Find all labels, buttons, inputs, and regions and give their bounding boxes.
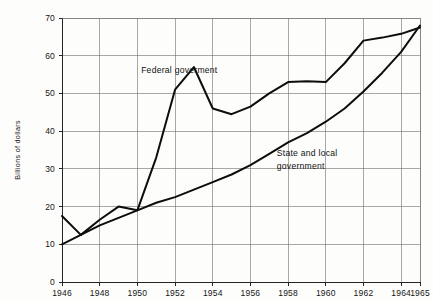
chart-axes: [62, 18, 420, 282]
series-inline-label: State and local: [277, 148, 338, 158]
horizontal-gridlines: [62, 18, 420, 244]
vertical-gridlines: [100, 18, 420, 282]
x-axis-tick-label: 1958: [278, 288, 298, 298]
x-axis-tick-label: 1948: [90, 288, 110, 298]
y-axis-tick-label: 50: [45, 88, 55, 98]
x-axis-tick-label: 1952: [165, 288, 185, 298]
y-axis-tick-label: 0: [50, 277, 55, 287]
x-axis-tick-label: 1964: [391, 288, 411, 298]
x-axis-tick-label: 1962: [354, 288, 374, 298]
y-axis-tick-label: 20: [45, 202, 55, 212]
y-axis-tick-labels: 010203040506070: [45, 13, 55, 287]
y-axis-tick-label: 30: [45, 164, 55, 174]
data-series-group: [62, 26, 420, 245]
x-axis-tick-label: 1946: [52, 288, 72, 298]
y-axis-title-text: Billions of dollars: [13, 120, 22, 180]
x-axis-tick-label: 1954: [203, 288, 223, 298]
y-axis-tick-label: 60: [45, 51, 55, 61]
y-axis-title: Billions of dollars: [13, 120, 22, 180]
line-chart: 010203040506070 194619481950195219541956…: [0, 0, 433, 302]
y-axis-tick-label: 70: [45, 13, 55, 23]
series-inline-label: Federal goverment: [141, 65, 218, 75]
series-inline-label: government: [277, 161, 325, 171]
axis-tick-marks: [59, 18, 421, 286]
x-axis-tick-label: 1960: [316, 288, 336, 298]
y-axis-tick-label: 10: [45, 239, 55, 249]
x-axis-tick-label: 1950: [128, 288, 148, 298]
x-axis-tick-label: 1965: [410, 288, 430, 298]
chart-figure: 010203040506070 194619481950195219541956…: [0, 0, 433, 302]
x-axis-tick-label: 1956: [241, 288, 261, 298]
y-axis-tick-label: 40: [45, 126, 55, 136]
x-axis-tick-labels: 1946194819501952195419561958196019621964…: [52, 288, 430, 298]
series-line: [62, 26, 420, 245]
